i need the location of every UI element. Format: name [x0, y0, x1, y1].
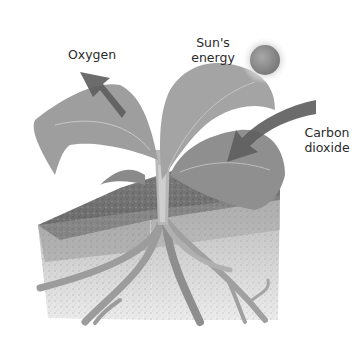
suns-energy-label-line2: energy: [183, 50, 243, 65]
plant-illustration: [0, 0, 362, 348]
sun: [241, 36, 289, 84]
suns-energy-label: Sun's energy: [183, 35, 243, 65]
oxygen-label: Oxygen: [62, 47, 122, 62]
carbon-dioxide-label-line1: Carbon: [296, 125, 358, 140]
suns-energy-label-line1: Sun's: [183, 35, 243, 50]
carbon-dioxide-label: Carbon dioxide: [296, 125, 358, 155]
carbon-dioxide-label-line2: dioxide: [296, 140, 358, 155]
photosynthesis-diagram: Oxygen Sun's energy Carbon dioxide: [0, 0, 362, 348]
